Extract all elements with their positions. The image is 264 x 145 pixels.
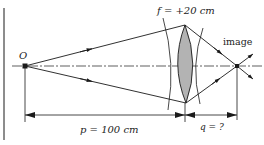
focal-length-text: f = +20 cm: [156, 5, 215, 16]
lower-incident-ray: [25, 66, 186, 103]
diverging-ray-up: [237, 54, 253, 66]
q-arrow-right: [227, 112, 237, 118]
lower-refracted-ray: [186, 66, 237, 103]
focal-length-label: f = +20 cm: [156, 5, 215, 16]
lower-incident-arrow: [80, 79, 92, 82]
upper-incident-ray: [25, 25, 185, 66]
p-arrow-left: [25, 112, 35, 118]
upper-refracted-arrow: [214, 48, 222, 54]
q-distance-label: q = ?: [200, 122, 224, 132]
incoming-wavefront-arc: [163, 18, 171, 110]
object-label: O: [19, 50, 27, 61]
p-arrow-right: [175, 112, 185, 118]
converging-lens: [178, 25, 193, 103]
image-point: [235, 64, 239, 68]
lens-diagram: O f = +20 cm image p = 100 cm q = ?: [0, 0, 264, 145]
image-label: image: [223, 36, 253, 47]
diverging-ray-down: [237, 66, 253, 79]
lower-refracted-arrow: [212, 78, 220, 84]
q-arrow-left: [185, 112, 195, 118]
p-distance-label: p = 100 cm: [80, 124, 139, 135]
upper-incident-arrow: [80, 49, 92, 52]
